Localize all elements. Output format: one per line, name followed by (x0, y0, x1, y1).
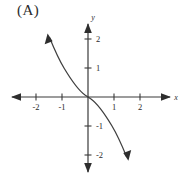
x-tick-label-pos1: 1 (112, 102, 116, 112)
x-tick-label-pos2: 2 (138, 102, 142, 112)
x-tick-label-neg1: -1 (58, 102, 65, 112)
x-tick-label-neg2: -2 (32, 102, 39, 112)
y-tick-label-pos2: 2 (96, 34, 100, 44)
y-tick-label-neg1: -1 (96, 121, 103, 131)
y-axis-arrow-up (84, 23, 92, 33)
x-axis-arrow-right (161, 93, 171, 101)
x-axis-label: x (173, 93, 178, 102)
x-axis-arrow-left (11, 93, 21, 101)
y-axis-arrow-down (84, 163, 92, 173)
graph-figure: (A) -2 -1 1 2 2 1 -1 -2 x y (0, 0, 186, 181)
y-tick-label-pos1: 1 (96, 63, 100, 73)
coordinate-plane: -2 -1 1 2 2 1 -1 -2 x y (0, 0, 186, 181)
y-axis-label: y (90, 13, 95, 22)
y-tick-label-neg2: -2 (96, 150, 103, 160)
